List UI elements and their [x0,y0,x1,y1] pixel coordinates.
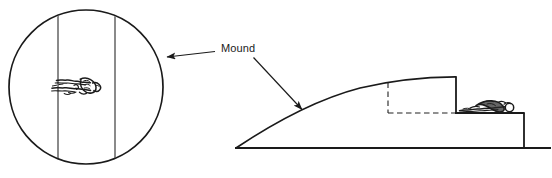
mound-figure-detail-circle [505,103,513,111]
arrow-to-mound-slope [254,58,303,110]
inset-circle-group [9,5,163,172]
mound-cross-section-group [235,76,551,148]
diagram-canvas [0,0,552,178]
arrow-to-inset [167,52,215,58]
mound-label: Mound [221,42,255,54]
mound-slope-curve [236,77,456,148]
mound-hidden-outline [388,83,455,114]
figure-root: Mound [0,0,552,178]
annotation-arrows [167,52,302,110]
mound-sketch-figure [460,101,514,112]
inset-sketch-figure [52,78,101,94]
inset-circle-outline [9,10,163,164]
